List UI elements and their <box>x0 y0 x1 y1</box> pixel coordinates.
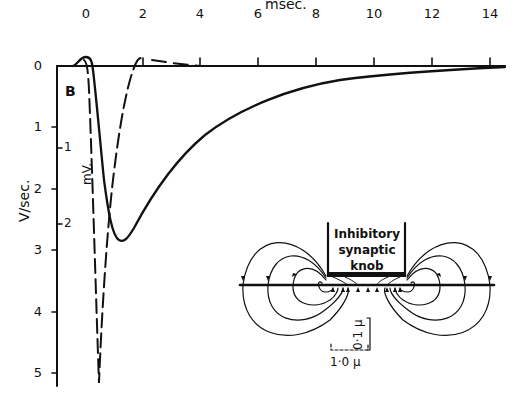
x-tick-label: 4 <box>196 6 204 21</box>
x-tick-label: 12 <box>424 6 441 21</box>
y-tick-label: 0 <box>22 58 42 73</box>
x-tick-label: 8 <box>312 6 320 21</box>
y-tick-label: 3 <box>22 242 42 257</box>
figure: 0 2 4 6 8 10 12 14 msec. 0 1 2 3 4 5 1 2… <box>0 0 520 397</box>
x-tick-label: 2 <box>139 6 147 21</box>
scale-label-horizontal: 1·0 μ <box>330 355 361 369</box>
y-axis-title-mv: mV. <box>80 163 94 185</box>
x-tick-label: 0 <box>82 6 90 21</box>
panel-label: B <box>65 83 76 99</box>
x-tick-label: 10 <box>366 6 383 21</box>
y-tick-label: 5 <box>22 365 42 380</box>
solid-potential-curve <box>73 57 505 241</box>
knob-label-line: Inhibitory <box>328 226 406 242</box>
scale-label-vertical: 0·1 μ <box>351 319 365 350</box>
x-tick-label: 14 <box>482 6 499 21</box>
mv-tick-label: 2 <box>64 216 72 230</box>
knob-label-line: knob <box>328 258 406 274</box>
knob-label-line: synaptic <box>328 242 406 258</box>
dashed-rate-curve <box>84 58 145 383</box>
knob-label: Inhibitory synaptic knob <box>328 226 406 274</box>
x-tick-label: 6 <box>254 6 262 21</box>
y-axis-title-vsec: V/sec. <box>16 180 32 222</box>
y-tick-label: 4 <box>22 304 42 319</box>
y-tick-label: 1 <box>22 119 42 134</box>
x-axis-title: msec. <box>265 0 307 12</box>
plot-canvas <box>0 0 520 397</box>
mv-tick-label: 1 <box>64 140 72 154</box>
